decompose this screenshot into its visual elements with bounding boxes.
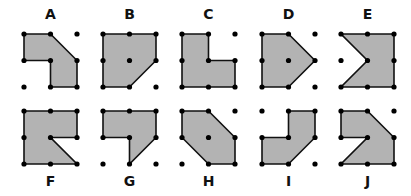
shape-c: C [179,6,237,90]
grid-dot [153,58,158,63]
grid-dot [312,84,317,89]
grid-dot [391,108,396,113]
grid-dot [153,31,158,36]
grid-dot [100,108,105,113]
grid-dot [338,161,343,166]
grid-dot [286,161,291,166]
grid-dot [391,31,396,36]
grid-dot [48,58,53,63]
grid-dot [206,108,211,113]
shape-label: I [286,173,291,189]
grid-dot [127,161,132,166]
grid-dot [232,84,237,89]
grid-dot [365,108,370,113]
grid-dot [206,31,211,36]
grid-dot [391,135,396,140]
grid-dot [127,84,132,89]
grid-dot [153,161,158,166]
grid-dot [179,58,184,63]
grid-dot [232,161,237,166]
grid-dot [312,161,317,166]
grid-dot [232,31,237,36]
grid-dot [127,135,132,140]
grid-dot [127,108,132,113]
grid-dot [365,135,370,140]
grid-dot [179,31,184,36]
grid-dot [206,84,211,89]
grid-dot [48,84,53,89]
grid-dot [312,108,317,113]
grid-dot [259,31,264,36]
grid-dot [232,108,237,113]
grid-dot [391,58,396,63]
grid-dot [338,135,343,140]
grid-dot [312,31,317,36]
shape-label: E [363,6,373,22]
polygon-grid-figure: ABCDEFGHIJ [0,0,411,196]
grid-dot [391,84,396,89]
shape-label: F [46,173,56,189]
grid-dot [338,108,343,113]
grid-dot [100,31,105,36]
grid-dot [286,108,291,113]
grid-dot [100,135,105,140]
shape-label: H [203,173,215,189]
grid-dot [179,108,184,113]
shape-label: G [124,173,136,189]
grid-dot [74,31,79,36]
grid-dot [259,84,264,89]
grid-dot [179,161,184,166]
grid-dot [312,135,317,140]
grid-dot [365,84,370,89]
shape-e: E [338,6,396,90]
grid-dot [74,58,79,63]
grid-dot [259,108,264,113]
grid-dot [232,135,237,140]
grid-dot [365,58,370,63]
grid-dot [74,135,79,140]
grid-dot [48,161,53,166]
grid-dot [48,135,53,140]
grid-dot [338,58,343,63]
shape-label: A [45,6,56,22]
grid-dot [259,58,264,63]
grid-dot [74,161,79,166]
grid-dot [21,58,26,63]
grid-dot [286,58,291,63]
grid-dot [153,84,158,89]
grid-dot [206,135,211,140]
grid-dot [286,31,291,36]
grid-dot [391,161,396,166]
shape-label: C [203,6,213,22]
grid-dot [100,84,105,89]
grid-dot [21,135,26,140]
grid-dot [153,135,158,140]
grid-dot [206,58,211,63]
grid-dot [21,108,26,113]
grid-dot [127,58,132,63]
grid-dot [153,108,158,113]
grid-dot [74,84,79,89]
grid-dot [21,31,26,36]
grid-dot [74,108,79,113]
shape-label: D [283,6,295,22]
grid-dot [338,84,343,89]
grid-dot [48,108,53,113]
shape-h: H [179,108,237,189]
grid-dot [286,135,291,140]
shape-j: J [338,108,396,189]
grid-dot [338,31,343,36]
grid-dot [100,58,105,63]
shape-d: D [259,6,317,90]
shape-label: B [124,6,135,22]
shape-a: A [21,6,79,90]
grid-dot [206,161,211,166]
grid-dot [232,58,237,63]
grid-dot [179,135,184,140]
grid-dot [312,58,317,63]
grid-dot [259,135,264,140]
grid-dot [100,161,105,166]
grid-dot [179,84,184,89]
shape-label: J [364,173,370,189]
shape-i: I [259,108,317,189]
